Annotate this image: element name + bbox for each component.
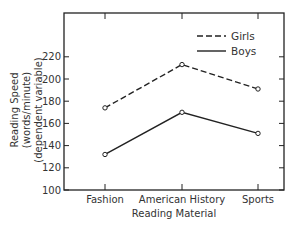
- x-axis-label: Reading Material: [64, 208, 284, 219]
- data-point: [103, 106, 107, 110]
- y-axis-title: Reading Speed (words/minute): [9, 35, 33, 185]
- y-axis-label: Reading Speed (words/minute) (dependent …: [9, 35, 45, 185]
- series-boys-line: [105, 112, 258, 154]
- legend-label-boys: Boys: [231, 45, 256, 57]
- legend: GirlsBoys: [197, 30, 256, 57]
- data-point: [180, 110, 184, 114]
- data-point: [256, 87, 260, 91]
- y-tick-label: 100: [42, 185, 61, 196]
- data-point: [180, 62, 184, 66]
- series-girls-line: [105, 65, 258, 108]
- x-tick-label: Sports: [242, 194, 274, 205]
- y-axis-subtitle: (dependent variable): [33, 35, 45, 185]
- data-series: [103, 62, 260, 156]
- legend-label-girls: Girls: [231, 30, 255, 42]
- data-point: [103, 152, 107, 156]
- data-point: [256, 131, 260, 135]
- x-tick-label: Fashion: [86, 194, 124, 205]
- x-tick-label: American History: [139, 194, 225, 205]
